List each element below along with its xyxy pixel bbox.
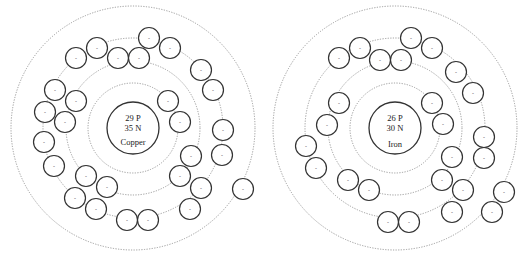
neutrons-label: 30 N [387, 123, 404, 133]
electron: - [191, 178, 212, 199]
electron-charge-label: - [95, 206, 97, 212]
electron-charge-label: - [305, 143, 307, 149]
electron: - [35, 102, 56, 123]
electron: - [34, 132, 55, 153]
electron: - [329, 48, 350, 69]
electron: - [338, 170, 359, 191]
electron-charge-label: - [451, 154, 453, 160]
electron-charge-label: - [96, 45, 98, 51]
electron-charge-label: - [179, 119, 181, 125]
electron: - [108, 48, 129, 69]
electron: - [160, 38, 181, 59]
electron-charge-label: - [222, 127, 224, 133]
iron-atom: 26 P 30 N Iron -------------------------… [273, 6, 517, 250]
electron: - [463, 83, 484, 104]
electron-charge-label: - [347, 177, 349, 183]
electron-charge-label: - [431, 45, 433, 51]
electron-charge-label: - [212, 87, 214, 93]
electron: - [433, 114, 454, 135]
electron: - [97, 177, 118, 198]
electron: - [213, 120, 234, 141]
electron: - [317, 115, 338, 136]
element-label: Copper [120, 137, 145, 147]
electron-charge-label: - [85, 173, 87, 179]
electron: - [391, 50, 412, 71]
electron: - [66, 48, 87, 69]
electron-charge-label: - [315, 165, 317, 171]
electron: - [55, 112, 76, 133]
electron: - [474, 127, 495, 148]
electron: - [138, 210, 159, 231]
electron: - [170, 166, 191, 187]
protons-label: 26 P [387, 113, 403, 123]
electron: - [44, 156, 65, 177]
electron: - [453, 180, 474, 201]
electron-charge-label: - [326, 122, 328, 128]
electron-charge-label: - [441, 177, 443, 183]
electron-charge-label: - [179, 173, 181, 179]
protons-label: 29 P [125, 113, 141, 123]
electron-charge-label: - [442, 121, 444, 127]
electron: - [422, 93, 443, 114]
electron: - [129, 48, 150, 69]
electron-charge-label: - [462, 187, 464, 193]
electron-charge-label: - [167, 98, 169, 104]
electron: - [494, 182, 515, 203]
electron-charge-label: - [451, 209, 453, 215]
electron-charge-label: - [75, 98, 77, 104]
electron: - [329, 93, 350, 114]
electron-charge-label: - [106, 184, 108, 190]
electron: - [399, 212, 420, 233]
neutrons-label: 35 N [125, 123, 142, 133]
electron-charge-label: - [200, 67, 202, 73]
electron: - [65, 188, 86, 209]
electron-charge-label: - [138, 55, 140, 61]
electron: - [181, 146, 202, 167]
electron: - [76, 166, 97, 187]
electron-charge-label: - [53, 163, 55, 169]
electron-charge-label: - [200, 185, 202, 191]
electron-charge-label: - [43, 139, 45, 145]
electron: - [442, 147, 463, 168]
copper-atom: 29 P 35 N Copper -----------------------… [11, 6, 255, 250]
electron: - [86, 199, 107, 220]
electron-charge-label: - [147, 217, 149, 223]
electron-charge-label: - [483, 155, 485, 161]
electron: - [296, 136, 317, 157]
electron: - [422, 38, 443, 59]
electron-charge-label: - [126, 217, 128, 223]
electron: - [139, 28, 160, 49]
electron-charge-label: - [455, 69, 457, 75]
electron-charge-label: - [54, 87, 56, 93]
electron-charge-label: - [74, 195, 76, 201]
electron-charge-label: - [400, 57, 402, 63]
electron-charge-label: - [44, 109, 46, 115]
electron: - [370, 50, 391, 71]
electron: - [482, 202, 503, 223]
electron: - [191, 60, 212, 81]
electron: - [66, 91, 87, 112]
electron: - [45, 80, 66, 101]
electron: - [180, 199, 201, 220]
electron-charge-label: - [491, 209, 493, 215]
electron-charge-label: - [189, 206, 191, 212]
electron: - [306, 158, 327, 179]
electron-charge-label: - [169, 45, 171, 51]
atom-diagram: 29 P 35 N Copper -----------------------… [0, 0, 526, 264]
electron-charge-label: - [472, 90, 474, 96]
electron: - [350, 38, 371, 59]
electron-charge-label: - [359, 45, 361, 51]
electron-charge-label: - [503, 189, 505, 195]
electron: - [87, 38, 108, 59]
electron: - [117, 210, 138, 231]
electron-charge-label: - [75, 55, 77, 61]
electron-charge-label: - [368, 187, 370, 193]
electron-charge-label: - [148, 35, 150, 41]
element-label: Iron [388, 139, 403, 149]
electron: - [442, 202, 463, 223]
electron: - [359, 180, 380, 201]
electron: - [378, 212, 399, 233]
electron-charge-label: - [221, 152, 223, 158]
electron: - [158, 91, 179, 112]
electron: - [474, 148, 495, 169]
